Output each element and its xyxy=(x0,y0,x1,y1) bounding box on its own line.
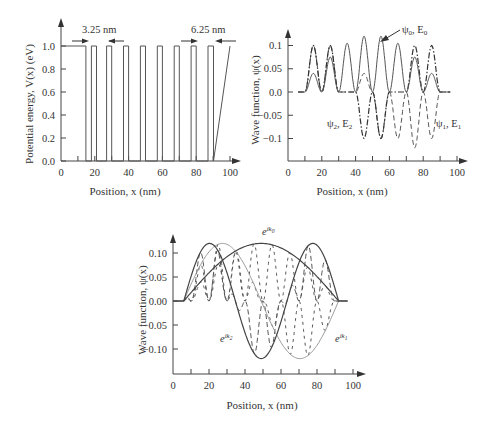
svg-text:ψ1, E1: ψ1, E1 xyxy=(436,118,462,131)
arrow-left-icon xyxy=(215,39,222,44)
label-k2: eik2 xyxy=(220,332,233,344)
label-psi0: ψ0, E0 xyxy=(380,24,428,42)
x-tick-label: 100 xyxy=(222,167,238,178)
annotation-label: 3.25 nm xyxy=(82,24,116,35)
x-tick-label: 0 xyxy=(170,380,175,391)
x-tick-label: 20 xyxy=(90,167,101,178)
label-psi1: ψ1, E1 xyxy=(436,118,462,131)
x-tick-label: 60 xyxy=(157,167,168,178)
y-tick-label: 0.05 xyxy=(264,63,282,74)
x-tick-label: 0 xyxy=(58,167,63,178)
plot-potential-energy: 1.00.80.60.40.20.0 020406080100 3.25 nm … xyxy=(23,18,241,198)
x-tick-label: 100 xyxy=(449,167,465,178)
y-tick-label: 0.2 xyxy=(42,133,55,144)
annotation-3-25nm: 3.25 nm xyxy=(72,24,124,44)
svg-text:ψ0, E0: ψ0, E0 xyxy=(402,24,428,37)
y-axis-arrow-icon xyxy=(58,18,64,27)
label-k1: eik1 xyxy=(335,332,348,344)
x-axis-title: Position, x (nm) xyxy=(89,185,161,198)
y-axis-title: Wave function, ψ(x) xyxy=(249,55,262,145)
y-tick-label: 0.4 xyxy=(42,110,56,121)
label-k0: eik0 xyxy=(262,225,275,237)
y-axis-arrow-icon xyxy=(170,234,176,243)
x-tick-label: 20 xyxy=(204,380,215,391)
y-ticks: 1.00.80.60.40.20.0 xyxy=(42,41,66,167)
arrow-left-icon xyxy=(108,39,115,44)
x-tick-label: 80 xyxy=(418,167,429,178)
x-ticks: 020406080100 xyxy=(285,156,465,178)
y-tick-label: 1.0 xyxy=(42,41,55,52)
y-tick-label: 0.05 xyxy=(149,272,167,283)
x-tick-label: 0 xyxy=(285,167,290,178)
figure-canvas: 1.00.80.60.40.20.0 020406080100 3.25 nm … xyxy=(0,0,493,421)
x-axis-title: Position, x (nm) xyxy=(226,399,298,412)
x-tick-label: 40 xyxy=(240,380,251,391)
potential-curve xyxy=(61,46,230,161)
x-tick-label: 40 xyxy=(123,167,134,178)
x-tick-label: 60 xyxy=(384,167,395,178)
x-axis-title: Position, x (nm) xyxy=(316,185,388,198)
x-tick-label: 20 xyxy=(317,167,328,178)
plot-wave-functions: 0.10.050.0−0.05−0.1 020406080100 ψ0, E0 … xyxy=(249,24,468,198)
x-tick-label: 40 xyxy=(350,167,361,178)
x-ticks: 020406080100 xyxy=(58,156,238,178)
x-tick-label: 60 xyxy=(276,380,287,391)
svg-text:ψ2, E2: ψ2, E2 xyxy=(327,118,353,131)
x-tick-label: 80 xyxy=(191,167,202,178)
y-tick-label: 0.0 xyxy=(42,156,55,167)
plot-envelope-functions: 0.100.050.00−0.05−0.10 020406080100 eik0… xyxy=(136,225,366,412)
label-psi2: ψ2, E2 xyxy=(327,118,353,131)
arrow-right-icon xyxy=(191,39,198,44)
y-tick-label: 0.10 xyxy=(149,248,167,259)
svg-text:eik2: eik2 xyxy=(220,332,233,344)
x-axis-arrow-icon xyxy=(357,371,366,377)
x-tick-label: 100 xyxy=(345,380,361,391)
annotation-label: 6.25 nm xyxy=(191,24,225,35)
y-axis-title: Potential energy, V(x) (eV) xyxy=(23,44,36,164)
x-ticks: 020406080100 xyxy=(170,369,361,391)
y-tick-label: 0.00 xyxy=(149,296,167,307)
x-axis-arrow-icon xyxy=(459,158,468,164)
y-axis-arrow-icon xyxy=(285,29,291,38)
annotation-6-25nm: 6.25 nm xyxy=(181,24,236,44)
x-tick-label: 80 xyxy=(312,380,323,391)
y-tick-label: 0.1 xyxy=(269,40,282,51)
arrow-right-icon xyxy=(82,39,89,44)
y-tick-label: 0.0 xyxy=(269,87,282,98)
svg-text:eik1: eik1 xyxy=(335,332,348,344)
x-axis-arrow-icon xyxy=(232,158,241,164)
y-axis-title: Wave function, ψ(x) xyxy=(136,265,149,355)
y-tick-label: −0.05 xyxy=(258,110,282,121)
y-tick-label: 0.6 xyxy=(42,87,55,98)
y-tick-label: 0.8 xyxy=(42,64,55,75)
svg-text:eik0: eik0 xyxy=(262,225,275,237)
y-tick-label: −0.1 xyxy=(263,133,282,144)
